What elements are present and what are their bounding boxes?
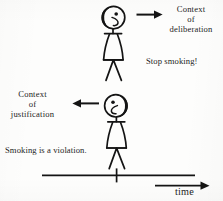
- label-smoking-is-a-violation-utterance: Smoking is a violation.: [5, 145, 87, 155]
- justification-arrow-left-icon: [72, 99, 99, 107]
- upper-figure-body: [104, 34, 124, 60]
- upper-stick-figure: [101, 6, 124, 80]
- lower-stick-figure: [105, 95, 128, 169]
- label-stop-smoking-utterance: Stop smoking!: [146, 56, 198, 66]
- lower-figure-face-curve: [111, 106, 117, 114]
- diagram-canvas: Context of deliberation Context of justi…: [0, 0, 223, 201]
- upper-figure-face-curve: [112, 17, 118, 25]
- deliberation-arrow-right-icon: [137, 10, 163, 18]
- label-context-of-deliberation: Context of deliberation: [160, 4, 222, 34]
- lower-figure-legs: [109, 148, 124, 169]
- label-time-axis: time: [175, 186, 194, 198]
- time-axis: [42, 168, 195, 182]
- lower-figure-body: [107, 122, 127, 148]
- lower-figure-eye: [111, 100, 115, 104]
- upper-figure-legs: [106, 60, 121, 81]
- upper-figure-eye: [114, 12, 118, 16]
- label-context-of-justification: Context of justification: [1, 89, 64, 119]
